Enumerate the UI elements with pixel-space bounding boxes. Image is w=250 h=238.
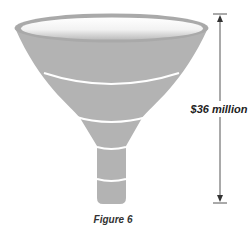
arrow-down-head-icon — [217, 195, 223, 202]
dimension-label: $36 million — [188, 101, 250, 117]
funnel-figure: $36 million Figure 6 — [0, 0, 250, 238]
funnel-body — [15, 14, 209, 205]
arrow-up-head-icon — [217, 15, 223, 22]
funnel-opening — [21, 18, 203, 40]
figure-caption: Figure 6 — [0, 214, 226, 225]
funnel-diagram — [0, 0, 250, 238]
